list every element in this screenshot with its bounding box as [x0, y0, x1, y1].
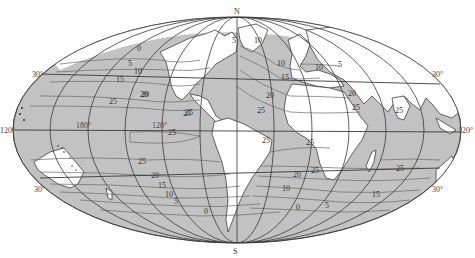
contour-label: 25 — [311, 166, 319, 175]
label-right-120: 120° — [458, 126, 473, 135]
north-label: N — [234, 7, 240, 16]
contour-label: 10 — [315, 63, 323, 72]
contour-label: 5 — [232, 36, 236, 45]
label-left-30s: 30° — [34, 185, 45, 194]
contour-label: 20 — [348, 89, 356, 98]
contour-label: 5 — [128, 59, 132, 68]
contour-label: 15 — [372, 190, 380, 199]
label-120-center: 120° — [152, 121, 167, 130]
contour-label: 0 — [204, 207, 208, 216]
label-left-120: 120° — [0, 126, 15, 135]
contour-label: 15 — [116, 75, 124, 84]
contour-label: 25 — [396, 164, 404, 173]
contour-label: 10 — [277, 59, 285, 68]
contour-label: 5 — [174, 197, 178, 206]
contour-label: 25 — [138, 157, 146, 166]
contour-label: 5 — [338, 60, 342, 69]
contour-label: 25 — [109, 97, 117, 106]
contour-label: 10 — [134, 67, 142, 76]
contour-label: 25 — [257, 106, 265, 115]
contour-label: 0 — [137, 44, 141, 53]
contour-label: 20 — [266, 91, 274, 100]
contour-label: 25 — [185, 108, 193, 117]
contour-label: 20 — [293, 170, 301, 179]
contour-label: 25 — [168, 128, 176, 137]
contour-label: 10 — [282, 184, 290, 193]
contour-label: 0 — [296, 203, 300, 212]
contour-label: 25 — [395, 106, 403, 115]
label-180: 180° — [76, 121, 91, 130]
contour-label: 15 — [281, 73, 289, 82]
contour-label: 25 — [352, 103, 360, 112]
contour-label: 20 — [141, 90, 149, 99]
contour-label: 25 — [306, 138, 314, 147]
label-right-30n: 30° — [432, 70, 443, 79]
world-map: N S 30° 120° 30° 30° 120° 30° 180° 120° … — [0, 0, 475, 258]
contour-label: 5 — [325, 201, 329, 210]
contour-label: 10 — [165, 190, 173, 199]
contour-label: 10 — [254, 36, 262, 45]
south-label: S — [233, 247, 237, 256]
label-right-30s: 30° — [432, 185, 443, 194]
label-left-30n: 30° — [32, 70, 43, 79]
contour-label: 15 — [158, 181, 166, 190]
contour-label: 25 — [262, 136, 270, 145]
contour-label: 20 — [151, 171, 159, 180]
